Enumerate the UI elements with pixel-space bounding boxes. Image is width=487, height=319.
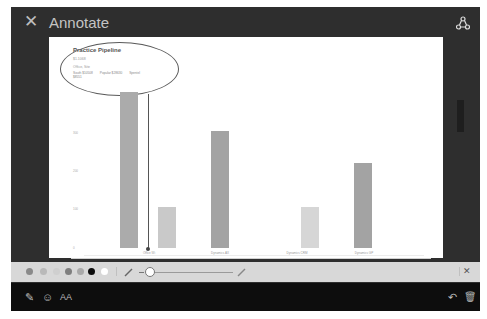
color-swatch[interactable] [40,268,47,275]
trash-icon[interactable]: 🗑 [464,291,477,303]
scrollbar-thumb[interactable] [457,100,464,132]
emoji-icon[interactable]: ☺ [42,291,53,303]
undo-icon[interactable]: ↶ [448,291,457,303]
page-title: Annotate [49,14,109,32]
chart-bar [301,207,319,248]
color-swatch[interactable] [65,268,72,275]
y-tick: 100 [73,207,78,211]
divider [116,267,117,276]
text-size-icon[interactable]: AA [60,291,72,303]
chart-bar [211,131,229,248]
document-canvas[interactable]: Practice Pipeline $1.1068 Office, Site S… [49,37,443,258]
annotation-line [148,94,149,249]
y-tick: 200 [73,169,78,173]
annotation-ellipse [60,42,179,96]
pen-icon[interactable] [123,266,135,278]
slider-knob[interactable] [145,267,155,277]
stroke-size-slider[interactable] [146,272,233,273]
share-icon[interactable] [456,16,470,30]
ink-toolbar: ✕ [11,262,480,282]
color-swatch[interactable] [88,268,95,275]
color-swatch[interactable] [77,268,84,275]
slider-minus [139,272,144,273]
chart-bar [120,92,138,248]
chart-bar [354,163,372,248]
color-swatch[interactable] [26,268,33,275]
annotate-window: ✕ Annotate Practice Pipeline $1.1068 Off… [11,7,480,311]
highlighter-icon[interactable] [236,266,248,278]
chart-bar [158,207,176,248]
header-bar: ✕ Annotate [11,7,480,37]
close-toolbar-button[interactable]: ✕ [463,266,471,276]
close-icon[interactable]: ✕ [24,12,38,32]
y-tick: 300 [73,131,78,135]
color-swatch[interactable] [53,268,60,275]
divider [71,258,431,259]
bottom-bar: ✎ ☺ AA ↶ 🗑 [11,283,480,311]
y-tick: 0 [73,246,75,250]
color-swatch[interactable] [101,268,108,275]
pen-tool-icon[interactable]: ✎ [25,291,34,303]
chart-baseline [84,255,424,256]
divider [459,267,460,276]
